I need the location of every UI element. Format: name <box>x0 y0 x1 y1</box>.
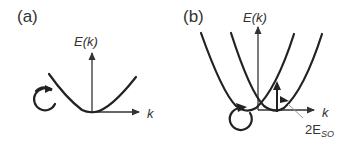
panel-a-y-axis-label: E(k) <box>74 34 98 49</box>
panel-a-x-axis-label: k <box>147 106 155 121</box>
panel-b-x-axis-label: k <box>322 105 330 120</box>
band-structure-diagram: (a) E(k) k (b) E(k) k 2ESO <box>0 0 354 143</box>
panel-a-spin-arrow-icon <box>45 85 53 93</box>
panel-b-annotation: 2ESO <box>305 122 334 139</box>
annotation-prefix: 2E <box>305 122 321 137</box>
panel-b-small-arrow-icon <box>280 96 289 103</box>
panel-a-spin-circle-icon <box>34 87 55 110</box>
panel-b-y-axis-label: E(k) <box>243 10 267 25</box>
panel-a-label: (a) <box>17 7 38 26</box>
annotation-subscript: SO <box>321 129 334 139</box>
panel-a: (a) E(k) k <box>17 7 155 121</box>
panel-b-label: (b) <box>183 7 204 26</box>
panel-b-leader-line <box>288 104 303 118</box>
panel-b: (b) E(k) k 2ESO <box>183 7 334 139</box>
